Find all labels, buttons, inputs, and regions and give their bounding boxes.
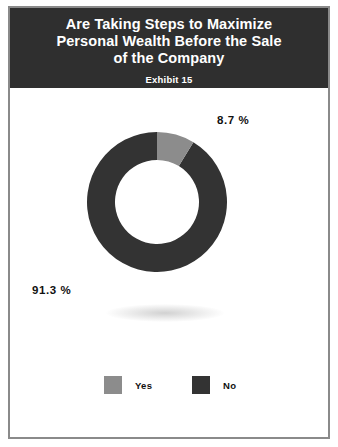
legend-swatch-yes <box>104 376 122 394</box>
legend-item-yes[interactable]: Yes <box>104 376 152 394</box>
exhibit-subtitle: Exhibit 15 <box>146 74 193 85</box>
legend-swatch-no <box>192 376 210 394</box>
value-label-no: 91.3 % <box>32 284 71 296</box>
value-label-yes: 8.7 % <box>217 114 249 126</box>
chart-area: 8.7 % 91.3 % Yes No <box>10 88 328 437</box>
donut-svg <box>87 132 227 272</box>
legend-item-no[interactable]: No <box>192 376 236 394</box>
page-title: Are Taking Steps to Maximize Personal We… <box>56 16 281 67</box>
legend-label-yes: Yes <box>135 380 152 391</box>
donut-slices <box>87 132 227 272</box>
donut-chart <box>87 132 227 272</box>
chart-legend: Yes No <box>10 376 328 400</box>
legend-label-no: No <box>223 380 236 391</box>
donut-shadow <box>106 304 224 322</box>
exhibit-page: Are Taking Steps to Maximize Personal We… <box>0 0 338 447</box>
title-banner: Are Taking Steps to Maximize Personal We… <box>10 8 328 88</box>
